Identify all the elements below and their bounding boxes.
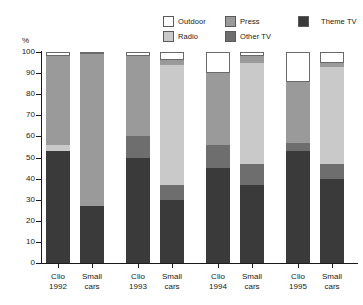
y-tick-mark-80 xyxy=(36,94,41,95)
y-tick-label-80: 80 xyxy=(26,89,35,98)
legend-label-outdoor: Outdoor xyxy=(178,17,206,26)
legend-label-other-tv: Other TV xyxy=(240,32,271,41)
bar-segment-other-tv xyxy=(126,136,150,157)
bar-segment-press xyxy=(240,56,264,62)
bar-7 xyxy=(320,52,344,263)
x-axis-label-line-0: Small xyxy=(308,272,356,282)
legend-item-theme-tv: Theme TV xyxy=(287,16,359,27)
legend-item-other-tv: Other TV xyxy=(225,31,287,42)
bar-segment-outdoor xyxy=(240,52,264,56)
legend-swatch-outdoor xyxy=(163,16,174,27)
x-tick-3 xyxy=(172,263,173,268)
legend-swatch-radio xyxy=(163,31,174,42)
bar-segment-press xyxy=(320,63,344,67)
legend-swatch-press xyxy=(225,16,236,27)
x-axis-label-line-1: cars xyxy=(68,282,116,292)
y-tick-label-30: 30 xyxy=(26,195,35,204)
bar-segment-press xyxy=(160,60,184,64)
legend-label-radio: Radio xyxy=(178,32,198,41)
bar-segment-outdoor xyxy=(126,52,150,56)
y-tick-label-20: 20 xyxy=(26,216,35,225)
bar-segment-theme-tv xyxy=(286,151,310,263)
bar-segment-press xyxy=(126,56,150,136)
bar-segment-theme-tv xyxy=(320,179,344,263)
x-axis-label-line-0: Small xyxy=(68,272,116,282)
bar-segment-outdoor xyxy=(206,52,230,73)
legend-swatch-other-tv xyxy=(225,31,236,42)
y-tick-mark-0 xyxy=(36,263,41,264)
bar-3 xyxy=(160,52,184,263)
y-tick-mark-50 xyxy=(36,158,41,159)
x-axis-label-line-0: Small xyxy=(148,272,196,282)
plot-area xyxy=(42,52,358,263)
y-tick-mark-40 xyxy=(36,179,41,180)
y-tick-mark-10 xyxy=(36,242,41,243)
bar-segment-theme-tv xyxy=(206,168,230,263)
y-tick-label-0: 0 xyxy=(31,258,35,267)
x-tick-4 xyxy=(218,263,219,268)
x-tick-0 xyxy=(58,263,59,268)
bar-segment-press xyxy=(80,54,104,206)
bar-6 xyxy=(286,52,310,263)
bar-segment-outdoor xyxy=(46,52,70,56)
x-tick-2 xyxy=(138,263,139,268)
bar-segment-radio xyxy=(240,63,264,164)
bar-segment-other-tv xyxy=(160,185,184,200)
y-tick-label-40: 40 xyxy=(26,174,35,183)
x-tick-7 xyxy=(332,263,333,268)
bar-segment-outdoor xyxy=(160,52,184,60)
bar-segment-other-tv xyxy=(206,145,230,168)
bar-segment-other-tv xyxy=(320,164,344,179)
x-axis-label-line-1: cars xyxy=(228,282,276,292)
bar-segment-radio xyxy=(320,67,344,164)
y-tick-mark-100 xyxy=(36,52,41,53)
legend-label-press: Press xyxy=(240,17,260,26)
bar-segment-theme-tv xyxy=(80,206,104,263)
chart-legend: Outdoor Press Theme TV Radio Other TV xyxy=(163,14,359,44)
bar-5 xyxy=(240,52,264,263)
x-axis-label-line-1: cars xyxy=(308,282,356,292)
bar-1 xyxy=(80,52,104,263)
y-tick-mark-90 xyxy=(36,73,41,74)
y-tick-label-90: 90 xyxy=(26,68,35,77)
x-axis-label-line-1: cars xyxy=(148,282,196,292)
x-axis-label-5: Smallcars xyxy=(228,272,276,291)
bar-segment-theme-tv xyxy=(46,151,70,263)
bar-segment-other-tv xyxy=(286,143,310,151)
x-axis-label-7: Smallcars xyxy=(308,272,356,291)
bar-segment-press xyxy=(286,82,310,143)
x-tick-5 xyxy=(252,263,253,268)
x-axis-label-line-0: Small xyxy=(228,272,276,282)
y-tick-label-70: 70 xyxy=(26,110,35,119)
y-tick-mark-20 xyxy=(36,221,41,222)
bar-segment-outdoor xyxy=(286,52,310,82)
bar-segment-press xyxy=(46,56,70,145)
stacked-bar-chart: Outdoor Press Theme TV Radio Other TV % … xyxy=(0,0,363,305)
legend-item-radio: Radio xyxy=(163,31,225,42)
legend-label-theme-tv: Theme TV xyxy=(321,17,357,26)
x-axis-label-3: Smallcars xyxy=(148,272,196,291)
bar-segment-outdoor xyxy=(320,52,344,63)
bar-segment-radio xyxy=(160,65,184,185)
bar-4 xyxy=(206,52,230,263)
bar-segment-radio xyxy=(46,145,70,151)
legend-item-outdoor: Outdoor xyxy=(163,16,225,27)
x-tick-6 xyxy=(298,263,299,268)
y-tick-label-50: 50 xyxy=(26,153,35,162)
legend-item-press: Press xyxy=(225,16,287,27)
bar-segment-outdoor xyxy=(80,52,104,54)
y-tick-label-10: 10 xyxy=(26,237,35,246)
y-tick-label-100: 100 xyxy=(22,47,35,56)
bar-2 xyxy=(126,52,150,263)
bar-segment-press xyxy=(206,73,230,145)
bar-segment-other-tv xyxy=(240,164,264,185)
y-tick-mark-70 xyxy=(36,115,41,116)
x-axis-label-1: Smallcars xyxy=(68,272,116,291)
legend-swatch-theme-tv xyxy=(298,16,309,27)
y-axis-unit-label: % xyxy=(22,36,29,45)
y-tick-label-60: 60 xyxy=(26,131,35,140)
y-tick-mark-30 xyxy=(36,200,41,201)
bar-segment-theme-tv xyxy=(240,185,264,263)
bar-segment-theme-tv xyxy=(126,158,150,264)
bar-segment-theme-tv xyxy=(160,200,184,263)
